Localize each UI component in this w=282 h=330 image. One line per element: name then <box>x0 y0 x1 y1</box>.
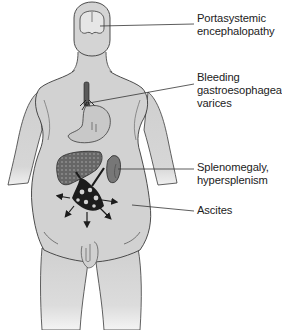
label-line: Portasystemic <box>197 12 275 25</box>
label-line: varices <box>197 97 282 110</box>
label-line: Splenomegaly, <box>197 161 269 174</box>
label-splenomegaly: Splenomegaly, hypersplenism <box>197 161 269 187</box>
brain <box>80 11 104 34</box>
label-line: gastroesophageal <box>197 84 282 97</box>
label-line: Bleeding <box>197 71 282 84</box>
label-ascites: Ascites <box>197 204 232 217</box>
leader-line-pse <box>100 24 194 26</box>
label-bleeding-varices: Bleeding gastroesophageal varices <box>197 71 282 110</box>
label-portasystemic-encephalopathy: Portasystemic encephalopathy <box>197 12 275 38</box>
label-line: encephalopathy <box>197 25 275 38</box>
label-line: Ascites <box>197 204 232 217</box>
label-line: hypersplenism <box>197 174 269 187</box>
portal-hypertension-diagram: Portasystemic encephalopathy Bleeding ga… <box>0 0 282 330</box>
right-arm <box>144 92 177 185</box>
